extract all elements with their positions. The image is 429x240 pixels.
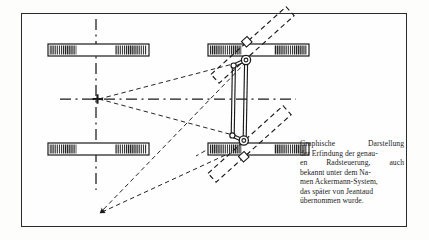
caption-line-3: en Radsteuerung, auch: [300, 158, 404, 168]
caption-line-5: men Ackermann-System,: [300, 177, 404, 187]
caption-line-1-word-2: Darstellung: [368, 139, 404, 149]
diagram-page: Graphische Darstellung der Erfindung der…: [0, 0, 429, 240]
caption-line-4: bekannt unter dem Na-: [300, 168, 404, 178]
caption-line-7: übernommen wurde.: [300, 196, 404, 206]
caption-line-1-word-1: Graphische: [300, 139, 335, 149]
caption-line-3-word-2: Radsteuerung,: [326, 158, 370, 168]
caption-line-1: Graphische Darstellung: [300, 139, 404, 149]
figure-caption: Graphische Darstellung der Erfindung der…: [300, 139, 404, 206]
caption-line-3-word-3: auch: [389, 158, 404, 168]
caption-line-6: das später von Jeantaud: [300, 187, 404, 197]
caption-line-2: der Erfindung der genau-: [300, 149, 404, 159]
caption-line-3-word-1: en: [300, 158, 307, 168]
